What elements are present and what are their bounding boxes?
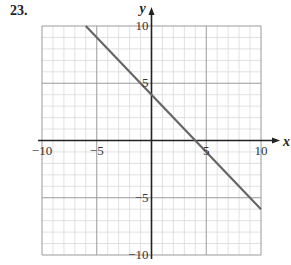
x-tick-label: −5 <box>90 143 104 158</box>
coordinate-plane: −10−5510−10−5510 xy <box>0 0 290 265</box>
y-tick-label: 10 <box>136 18 149 33</box>
x-tick-label: 5 <box>203 143 210 158</box>
axes <box>38 7 280 259</box>
y-tick-label: 5 <box>142 75 149 90</box>
x-axis-label: x <box>282 134 290 149</box>
y-tick-label: −10 <box>128 247 148 262</box>
y-axis-label: y <box>138 1 147 16</box>
x-tick-label: −10 <box>32 143 52 158</box>
y-tick-label: −5 <box>135 190 149 205</box>
x-axis-arrow-icon <box>272 138 280 144</box>
y-axis-arrow-icon <box>149 7 155 15</box>
axis-labels: xy <box>138 1 291 149</box>
x-tick-label: 10 <box>255 143 268 158</box>
